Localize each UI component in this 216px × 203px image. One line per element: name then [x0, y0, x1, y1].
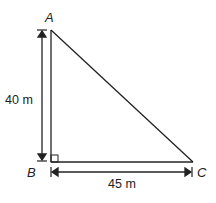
arrowhead-left-icon [52, 168, 58, 176]
arrowhead-up-icon [38, 31, 46, 37]
vertical-dimension [37, 30, 47, 161]
arrowhead-down-icon [38, 154, 46, 160]
side-ac-hypotenuse [51, 30, 193, 162]
horizontal-dimension [51, 167, 192, 177]
arrowhead-right-icon [185, 168, 191, 176]
triangle-diagram: A B C 40 m 45 m [0, 0, 216, 203]
vertex-label-b: B [27, 165, 36, 180]
right-angle-marker [51, 155, 58, 162]
horizontal-dimension-label: 45 m [108, 177, 136, 191]
triangle-abc [51, 30, 193, 162]
vertical-dimension-label: 40 m [5, 93, 33, 107]
vertex-label-a: A [44, 10, 54, 25]
vertex-label-c: C [197, 165, 207, 180]
